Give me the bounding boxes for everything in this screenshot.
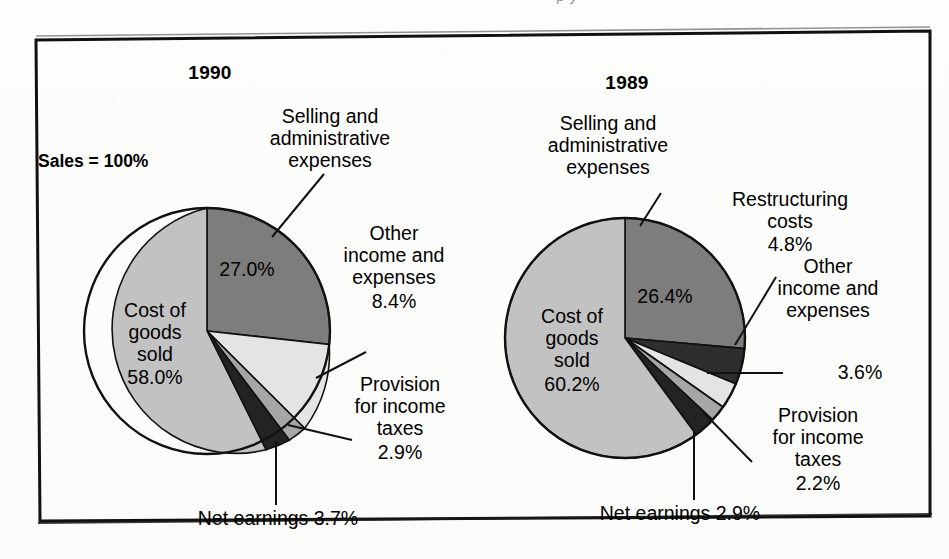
pie-1989-year-title: 1989 bbox=[605, 72, 648, 93]
leader-selling-admin-1990 bbox=[272, 174, 324, 237]
label-cost-of-goods-1989: Cost of goods sold bbox=[541, 305, 603, 371]
value-cost-of-goods-1990: 58.0% bbox=[127, 366, 182, 388]
pie-1990-sales-note: Sales = 100% bbox=[38, 152, 148, 172]
slice-selling-admin-1989 bbox=[625, 218, 745, 349]
label-provision-taxes-1990: Provision for income taxes bbox=[354, 373, 445, 439]
pie-1990-year-title: 1990 bbox=[188, 62, 231, 83]
value-selling-admin-1990: 27.0% bbox=[219, 258, 274, 280]
label-cost-of-goods-1990: Cost of goods sold bbox=[124, 299, 186, 365]
value-other-income-1990: 8.4% bbox=[372, 290, 416, 312]
label-selling-admin-1989: Selling and administrative expenses bbox=[548, 112, 668, 178]
label-net-earnings-1989: Net earnings 2.9% bbox=[600, 502, 760, 524]
label-net-earnings-1990: Net earnings 3.7% bbox=[198, 507, 358, 529]
label-restructuring-1989: Restructuring costs bbox=[732, 188, 848, 232]
label-selling-admin-1990: Selling and administrative expenses bbox=[270, 105, 390, 171]
value-provision-taxes-1990: 2.9% bbox=[378, 441, 422, 463]
value-other-income-1989: 3.6% bbox=[838, 361, 882, 383]
label-provision-taxes-1989: Provision for income taxes bbox=[772, 404, 863, 470]
value-restructuring-1989: 4.8% bbox=[768, 233, 812, 255]
value-cost-of-goods-1989: 60.2% bbox=[544, 373, 599, 395]
value-selling-admin-1989: 26.4% bbox=[637, 285, 692, 307]
label-other-income-1990: Other income and expenses bbox=[344, 222, 445, 288]
label-other-income-1989: Other income and expenses bbox=[778, 255, 879, 321]
leader-provision-1989 bbox=[703, 412, 752, 462]
value-provision-taxes-1989: 2.2% bbox=[796, 472, 840, 494]
